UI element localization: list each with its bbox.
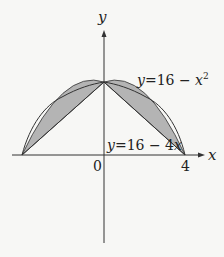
x-axis-arrow-icon [198, 153, 205, 158]
line-label: y=16 − 4x [106, 137, 182, 153]
origin-label: 0 [93, 158, 102, 174]
x-axis-label: x [208, 146, 217, 164]
y-axis-arrow-icon [102, 30, 107, 37]
diagram: y x 0 4 y=16 − x2 y=16 − 4x [0, 0, 224, 257]
y-axis-label: y [97, 8, 107, 26]
x-tick-4-label: 4 [181, 158, 190, 174]
parabola-label: y=16 − x2 [136, 71, 209, 88]
